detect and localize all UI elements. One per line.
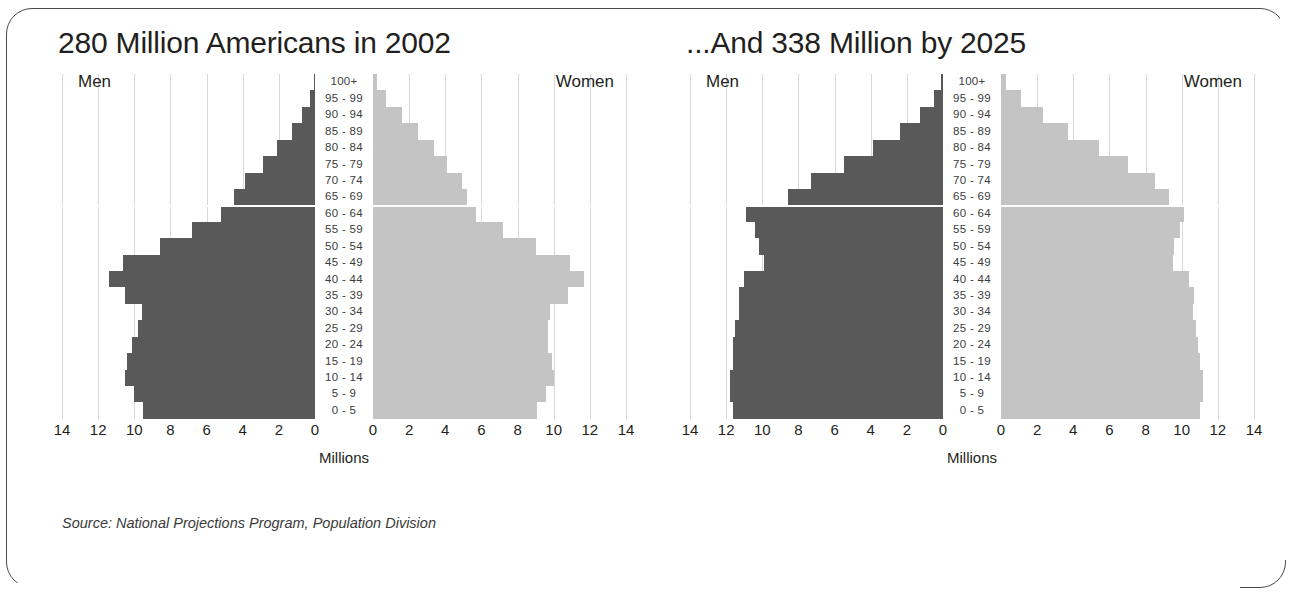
x-tick-label: 12 <box>582 421 599 438</box>
bar-row <box>373 238 626 254</box>
age-label: 0 - 5 <box>943 402 1001 418</box>
age-label: 10 - 14 <box>943 370 1001 386</box>
men-bar <box>744 271 943 287</box>
men-bar <box>746 205 943 221</box>
bar-row <box>1001 173 1254 189</box>
women-bar <box>1001 222 1180 238</box>
bar-row <box>1001 271 1254 287</box>
frame-mask-bottom <box>0 583 1240 593</box>
bar-row <box>62 205 315 221</box>
gridline <box>1254 74 1255 419</box>
women-bar <box>373 304 550 320</box>
age-label: 95 - 99 <box>943 90 1001 106</box>
men-bars-2002 <box>62 74 315 419</box>
age-label: 70 - 74 <box>943 173 1001 189</box>
bar-row <box>690 304 943 320</box>
bar-row <box>690 173 943 189</box>
bar-row <box>62 337 315 353</box>
bar-row <box>62 156 315 172</box>
bar-row <box>373 353 626 369</box>
age-label: 30 - 34 <box>315 304 373 320</box>
women-bar <box>1001 189 1169 205</box>
age-label: 15 - 19 <box>943 353 1001 369</box>
x-tick-label: 4 <box>1069 421 1077 438</box>
x-tick-label: 2 <box>405 421 413 438</box>
bar-row <box>1001 353 1254 369</box>
women-bar <box>1001 123 1068 139</box>
bar-row <box>1001 304 1254 320</box>
women-bar <box>1001 320 1196 336</box>
x-axis-title-2025: Millions <box>676 449 1268 466</box>
age-label: 35 - 39 <box>315 287 373 303</box>
women-plot-2002 <box>373 74 626 419</box>
age-labels-2025: 100+95 - 9990 - 9485 - 8980 - 8475 - 797… <box>943 74 1001 419</box>
women-bar <box>373 222 503 238</box>
women-bar <box>373 353 552 369</box>
men-bar <box>730 370 943 386</box>
x-tick-label: 14 <box>618 421 635 438</box>
men-bar <box>234 189 315 205</box>
women-bar <box>373 140 434 156</box>
bar-row <box>373 156 626 172</box>
men-bar <box>160 238 315 254</box>
x-tick-label: 6 <box>202 421 210 438</box>
women-bar <box>373 189 467 205</box>
bar-row <box>690 90 943 106</box>
men-heading-2002: Men <box>78 72 111 92</box>
men-plot-2025 <box>690 74 943 419</box>
x-axis-men-2002: 14121086420 <box>62 419 315 443</box>
women-heading-2002: Women <box>556 72 614 92</box>
bar-row <box>373 90 626 106</box>
women-bar <box>1001 386 1203 402</box>
women-bar <box>373 74 377 90</box>
age-label: 60 - 64 <box>315 205 373 221</box>
men-bar <box>123 255 315 271</box>
x-axis-women-2002: 02468101214 <box>373 419 626 443</box>
men-bar <box>739 304 943 320</box>
bar-row <box>62 353 315 369</box>
x-tick-label: 14 <box>682 421 699 438</box>
bar-row <box>62 386 315 402</box>
x-tick-label: 14 <box>54 421 71 438</box>
men-heading-2025: Men <box>706 72 739 92</box>
age-label: 70 - 74 <box>315 173 373 189</box>
bar-row <box>62 123 315 139</box>
women-bar <box>1001 353 1200 369</box>
bar-row <box>690 402 943 418</box>
women-bar <box>1001 370 1203 386</box>
men-bar <box>125 287 315 303</box>
age-label: 85 - 89 <box>315 123 373 139</box>
men-bar <box>811 173 943 189</box>
men-bar <box>733 402 943 418</box>
men-bar <box>733 353 943 369</box>
men-bar <box>844 156 943 172</box>
x-tick-label: 12 <box>718 421 735 438</box>
women-bar <box>373 337 548 353</box>
bar-row <box>690 370 943 386</box>
age-label: 75 - 79 <box>315 156 373 172</box>
bar-row <box>62 402 315 418</box>
x-axis-2025: 14121086420 02468101214 <box>676 419 1268 445</box>
men-bar <box>302 107 315 123</box>
bar-row <box>1001 90 1254 106</box>
men-bar <box>109 271 315 287</box>
women-bar <box>373 386 546 402</box>
age-label: 65 - 69 <box>943 189 1001 205</box>
x-tick-label: 10 <box>126 421 143 438</box>
pyramid-2025: Men Women 100+95 - 9990 - 9485 - 8980 - … <box>676 74 1268 419</box>
age-label: 65 - 69 <box>315 189 373 205</box>
bar-row <box>1001 386 1254 402</box>
bar-row <box>62 140 315 156</box>
chart-title-2025: ...And 338 Million by 2025 <box>686 26 1282 60</box>
men-bar <box>873 140 943 156</box>
bar-row <box>62 173 315 189</box>
x-tick-label: 10 <box>545 421 562 438</box>
bar-row <box>690 320 943 336</box>
x-tick-label: 6 <box>477 421 485 438</box>
women-bar <box>1001 74 1006 90</box>
x-axis-title-2002: Millions <box>48 449 640 466</box>
women-bar <box>1001 337 1198 353</box>
age-label: 90 - 94 <box>943 107 1001 123</box>
women-heading-2025: Women <box>1184 72 1242 92</box>
age-label: 50 - 54 <box>943 238 1001 254</box>
